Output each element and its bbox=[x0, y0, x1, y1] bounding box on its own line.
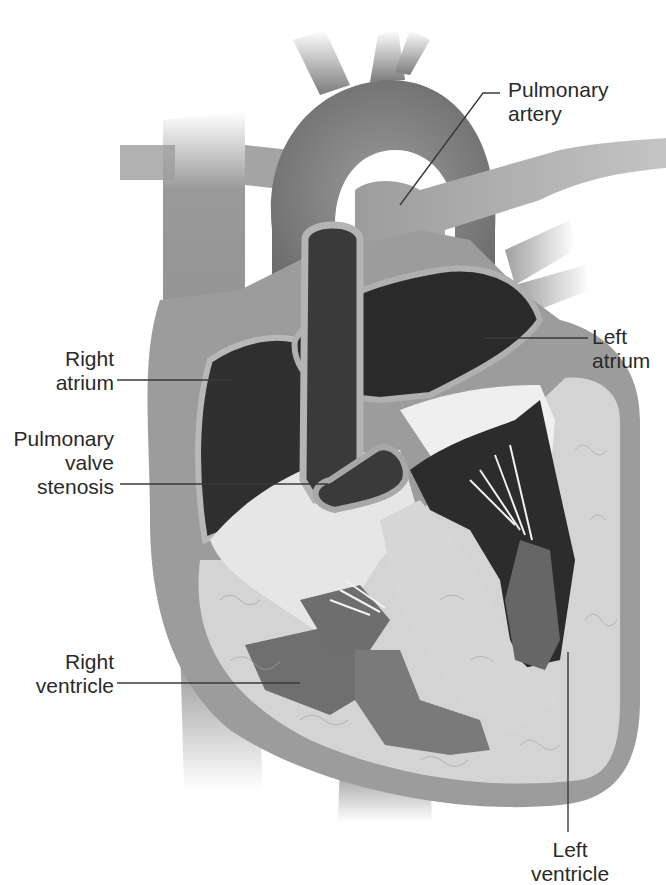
label-right-ventricle: Right ventricle bbox=[36, 650, 114, 698]
label-pulmonary-artery: Pulmonary artery bbox=[508, 78, 608, 126]
label-left-ventricle: Left ventricle bbox=[525, 838, 615, 885]
label-pulmonary-valve-stenosis: Pulmonary valve stenosis bbox=[14, 427, 114, 499]
label-right-atrium: Right atrium bbox=[56, 347, 114, 395]
label-left-atrium: Left atrium bbox=[592, 325, 650, 373]
